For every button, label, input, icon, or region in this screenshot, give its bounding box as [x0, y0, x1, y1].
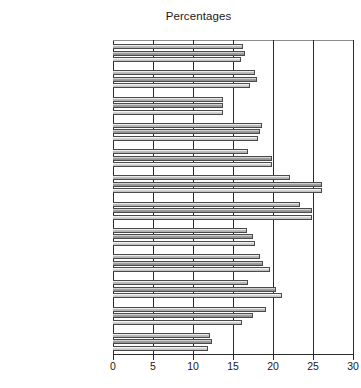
bar	[113, 77, 257, 82]
bar-group	[113, 250, 353, 276]
bar	[113, 44, 243, 49]
gridline-30	[353, 40, 354, 355]
bar	[113, 175, 290, 180]
bar	[113, 57, 241, 62]
bar-chart: Percentages 051015202530 White BritishWh…	[0, 0, 361, 388]
bar	[113, 339, 212, 344]
bar	[113, 110, 223, 115]
bar	[113, 162, 272, 167]
tick-label-5: 5	[150, 360, 156, 372]
bar-group	[113, 171, 353, 197]
bar	[113, 51, 245, 56]
bar-group	[113, 66, 353, 92]
bar-group	[113, 329, 353, 355]
bar	[113, 267, 270, 272]
plot-area	[113, 40, 353, 355]
bar	[113, 97, 223, 102]
bar-group	[113, 224, 353, 250]
tick-label-30: 30	[347, 360, 359, 372]
bar	[113, 307, 266, 312]
bar-group	[113, 303, 353, 329]
bar	[113, 103, 223, 108]
bar	[113, 241, 255, 246]
bar-group	[113, 119, 353, 145]
bar	[113, 215, 312, 220]
tick-label-20: 20	[267, 360, 279, 372]
bar	[113, 149, 248, 154]
bar	[113, 333, 210, 338]
bar	[113, 320, 242, 325]
bar	[113, 280, 248, 285]
chart-title: Percentages	[0, 10, 361, 22]
bar	[113, 254, 260, 259]
bar	[113, 313, 253, 318]
bar-group	[113, 198, 353, 224]
bar-group	[113, 40, 353, 66]
tick-label-0: 0	[110, 360, 116, 372]
bar	[113, 228, 247, 233]
tick-label-25: 25	[307, 360, 319, 372]
bar	[113, 129, 260, 134]
bar	[113, 293, 282, 298]
bar	[113, 83, 250, 88]
bar-group	[113, 145, 353, 171]
bar	[113, 123, 262, 128]
bar	[113, 346, 208, 351]
bar	[113, 70, 255, 75]
bar	[113, 261, 263, 266]
bar	[113, 182, 322, 187]
bar	[113, 188, 322, 193]
bar	[113, 156, 272, 161]
bar-group	[113, 93, 353, 119]
bar	[113, 202, 300, 207]
bar	[113, 136, 258, 141]
bar	[113, 287, 276, 292]
tick-label-15: 15	[227, 360, 239, 372]
bar	[113, 208, 312, 213]
tick-label-10: 10	[187, 360, 199, 372]
bar	[113, 234, 253, 239]
bar-group	[113, 276, 353, 302]
